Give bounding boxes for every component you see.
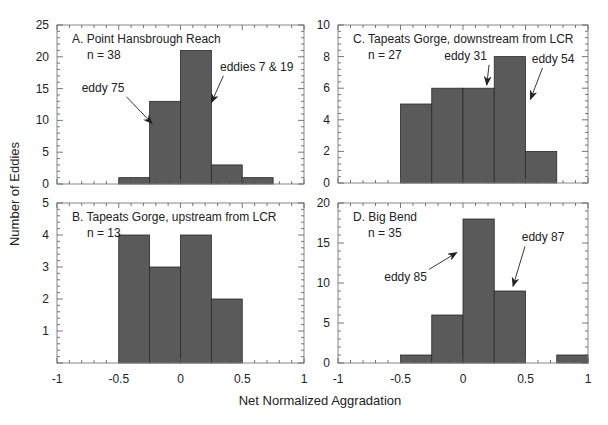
y-tick-label: 8 bbox=[323, 50, 330, 64]
panel-a: 0510152025A. Point Hansbrough Reachn = 3… bbox=[36, 18, 304, 191]
y-tick-label: 3 bbox=[42, 260, 49, 274]
x-tick-label: 1 bbox=[301, 372, 308, 386]
x-tick-label: 0.5 bbox=[517, 372, 534, 386]
y-tick-label: 20 bbox=[317, 196, 331, 210]
histogram-bar bbox=[526, 151, 557, 183]
histogram-bar bbox=[463, 219, 494, 363]
panel-b: 12345-1-0.500.51B. Tapeats Gorge, upstre… bbox=[42, 196, 307, 386]
arrow-icon bbox=[429, 253, 457, 270]
histogram-bar bbox=[401, 104, 432, 183]
eddy-annotation: eddy 31 bbox=[444, 49, 487, 63]
histogram-bar bbox=[432, 315, 463, 363]
arrow-icon bbox=[513, 246, 525, 286]
histogram-bar bbox=[557, 355, 588, 363]
x-tick-label: 0 bbox=[177, 372, 184, 386]
x-tick-label: 0 bbox=[460, 372, 467, 386]
histogram-bar bbox=[181, 50, 212, 184]
histogram-bar bbox=[432, 88, 463, 183]
y-tick-label: 6 bbox=[323, 81, 330, 95]
histogram-bar bbox=[401, 355, 432, 363]
y-tick-label: 5 bbox=[42, 145, 49, 159]
y-tick-label: 0 bbox=[42, 177, 49, 191]
arrow-icon bbox=[211, 76, 223, 103]
histogram-bar bbox=[119, 178, 150, 184]
histogram-bar bbox=[463, 88, 494, 183]
y-axis-title: Number of Eddies bbox=[7, 141, 22, 246]
arrow-icon bbox=[487, 65, 489, 85]
y-tick-label: 5 bbox=[42, 196, 49, 210]
y-tick-label: 2 bbox=[323, 144, 330, 158]
histogram-bar bbox=[150, 267, 181, 363]
sample-size-label: n = 27 bbox=[368, 48, 402, 62]
panel-title: A. Point Hansbrough Reach bbox=[72, 32, 221, 46]
y-tick-label: 4 bbox=[42, 228, 49, 242]
y-tick-label: 2 bbox=[42, 292, 49, 306]
y-tick-label: 10 bbox=[36, 113, 50, 127]
y-tick-label: 0 bbox=[323, 356, 330, 370]
sample-size-label: n = 13 bbox=[87, 226, 121, 240]
x-tick-label: 0.5 bbox=[234, 372, 251, 386]
eddy-annotation: eddy 54 bbox=[532, 52, 575, 66]
y-tick-label: 5 bbox=[323, 316, 330, 330]
y-tick-label: 4 bbox=[323, 113, 330, 127]
histogram-figure: 0510152025A. Point Hansbrough Reachn = 3… bbox=[0, 0, 608, 425]
x-tick-label: 1 bbox=[585, 372, 592, 386]
histogram-bar bbox=[211, 165, 242, 184]
eddy-annotation: eddy 75 bbox=[82, 81, 125, 95]
histogram-bar bbox=[119, 235, 150, 363]
panel-d: 05101520-1-0.500.51D. Big Bendn = 35eddy… bbox=[317, 196, 592, 386]
histogram-bar bbox=[242, 178, 273, 184]
panel-title: D. Big Bend bbox=[353, 210, 417, 224]
histogram-bar bbox=[211, 299, 242, 363]
panel-title: B. Tapeats Gorge, upstream from LCR bbox=[72, 210, 277, 224]
eddy-annotation: eddy 87 bbox=[522, 230, 565, 244]
y-tick-label: 25 bbox=[36, 18, 50, 32]
x-tick-label: -0.5 bbox=[108, 372, 129, 386]
histogram-bar bbox=[150, 101, 181, 184]
y-tick-label: 0 bbox=[323, 176, 330, 190]
x-tick-label: -1 bbox=[52, 372, 63, 386]
eddy-annotation: eddy 85 bbox=[384, 270, 427, 284]
x-tick-label: -0.5 bbox=[390, 372, 411, 386]
histogram-bar bbox=[494, 57, 525, 183]
y-tick-label: 10 bbox=[317, 18, 331, 32]
panel-title: C. Tapeats Gorge, downstream from LCR bbox=[353, 32, 574, 46]
x-axis-title: Net Normalized Aggradation bbox=[239, 393, 402, 408]
y-tick-label: 1 bbox=[42, 324, 49, 338]
y-tick-label: 10 bbox=[317, 276, 331, 290]
panel-c: 0246810C. Tapeats Gorge, downstream from… bbox=[317, 18, 588, 190]
y-tick-label: 15 bbox=[317, 236, 331, 250]
x-tick-label: -1 bbox=[333, 372, 344, 386]
eddy-annotation: eddies 7 & 19 bbox=[220, 60, 294, 74]
histogram-bar bbox=[494, 291, 525, 363]
arrow-icon bbox=[531, 68, 543, 99]
y-tick-label: 20 bbox=[36, 50, 50, 64]
y-tick-label: 15 bbox=[36, 82, 50, 96]
sample-size-label: n = 35 bbox=[368, 226, 402, 240]
arrow-icon bbox=[127, 97, 153, 124]
histogram-bar bbox=[181, 235, 212, 363]
sample-size-label: n = 38 bbox=[87, 48, 121, 62]
